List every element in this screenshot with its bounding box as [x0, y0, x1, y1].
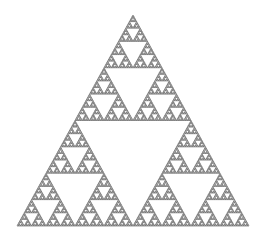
figure-canvas	[0, 0, 266, 242]
fractal-path	[17, 15, 249, 226]
sierpinski-triangle	[0, 0, 266, 242]
